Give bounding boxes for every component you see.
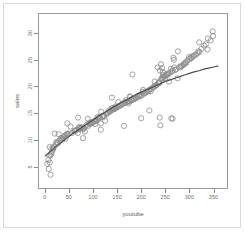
fit-line (45, 66, 219, 156)
x-tick-mark (69, 189, 70, 193)
y-axis-title: sales (14, 86, 20, 116)
data-point (56, 132, 61, 137)
x-tick-mark (93, 189, 94, 193)
x-tick-mark (117, 189, 118, 193)
data-point (157, 115, 162, 120)
x-tick-label: 50 (66, 194, 72, 200)
data-point (48, 172, 53, 177)
y-tick-label: 20 (27, 80, 33, 92)
y-tick-label: 15 (27, 107, 33, 119)
data-point (121, 123, 126, 128)
x-tick-label: 150 (112, 194, 121, 200)
data-point (68, 124, 73, 129)
y-tick-label: 5 (27, 161, 33, 173)
data-point (147, 108, 152, 113)
x-tick-mark (45, 189, 46, 193)
data-points-group (45, 29, 216, 177)
x-tick-label: 100 (88, 194, 97, 200)
data-point (65, 121, 70, 126)
chart-screenshot: 050100150200250300350 51015202530 youtub… (0, 0, 245, 232)
x-axis-title: youtube (38, 211, 228, 217)
y-tick-label: 30 (27, 27, 33, 39)
x-tick-label: 350 (209, 194, 218, 200)
data-point (46, 166, 51, 171)
x-tick-mark (189, 189, 190, 193)
data-point (109, 95, 114, 100)
data-point (98, 127, 103, 132)
x-tick-mark (165, 189, 166, 193)
data-point (130, 72, 135, 77)
x-tick-mark (214, 189, 215, 193)
y-tick-label: 25 (27, 54, 33, 66)
data-point (203, 42, 208, 47)
data-point (80, 136, 85, 141)
plot-area (38, 13, 228, 189)
scatter-plot-svg (39, 14, 227, 188)
y-tick-label: 10 (27, 134, 33, 146)
x-tick-label: 250 (161, 194, 170, 200)
data-point (75, 115, 80, 120)
x-tick-label: 200 (136, 194, 145, 200)
x-tick-label: 0 (43, 194, 46, 200)
x-tick-mark (141, 189, 142, 193)
data-point (197, 40, 202, 45)
data-point (175, 49, 180, 54)
x-tick-label: 300 (185, 194, 194, 200)
data-point (158, 123, 163, 128)
data-point (139, 116, 144, 121)
